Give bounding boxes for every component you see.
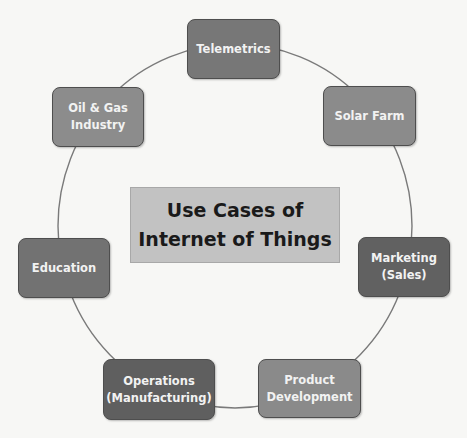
diagram-title: Use Cases of Internet of Things (130, 187, 340, 263)
node-marketing-sales: Marketing (Sales) (358, 237, 450, 297)
node-operations-manufacturing: Operations (Manufacturing) (103, 359, 215, 420)
node-oil-gas-industry: Oil & Gas Industry (52, 87, 144, 147)
node-telemetrics: Telemetrics (187, 19, 280, 79)
node-solar-farm: Solar Farm (323, 86, 416, 146)
node-education: Education (18, 238, 110, 298)
node-product-development: Product Development (258, 359, 361, 418)
